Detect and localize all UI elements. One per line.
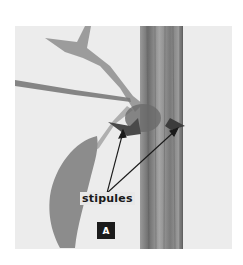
stem: [140, 26, 183, 249]
panel-letter-badge: A: [97, 222, 115, 239]
plant-photo: [15, 26, 232, 249]
plant-illustration: [15, 26, 232, 249]
stipules-label: stipules: [80, 192, 135, 205]
petiole: [15, 80, 131, 102]
